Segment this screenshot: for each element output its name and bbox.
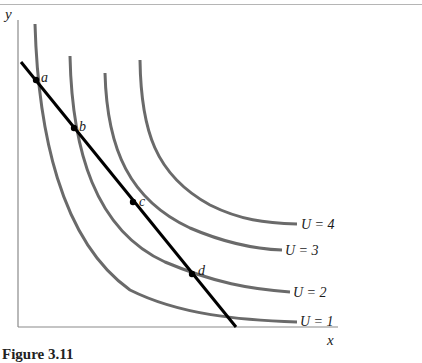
curve-label-u2: U = 2 — [293, 285, 327, 300]
point-d-marker — [189, 271, 195, 277]
point-a-marker — [33, 77, 39, 83]
indifference-curve-u1 — [35, 24, 297, 322]
indifference-curve-u3 — [105, 73, 282, 250]
point-c-marker — [130, 199, 136, 205]
curve-label-u4: U = 4 — [301, 217, 335, 232]
curve-label-u1: U = 1 — [300, 314, 334, 329]
figure-number: Figure 3.11 — [2, 346, 73, 362]
point-a-label: a — [41, 70, 48, 85]
point-b-marker — [71, 125, 77, 131]
figure-caption: Figure 3.11 Corners ... (caption partial… — [2, 346, 330, 363]
y-axis-label: y — [3, 6, 12, 22]
point-d-label: d — [198, 263, 206, 278]
curve-label-u3: U = 3 — [285, 243, 319, 258]
point-c-label: c — [139, 194, 146, 209]
point-b-label: b — [79, 119, 86, 134]
indifference-curve-u4 — [140, 60, 297, 224]
